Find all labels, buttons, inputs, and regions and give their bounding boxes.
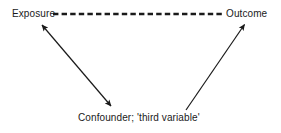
edge-exposure-confounder-double-arrow [42, 25, 111, 106]
edge-confounder-outcome-arrow [186, 25, 245, 111]
node-label-confounder: Confounder; 'third variable' [78, 112, 200, 124]
confounding-diagram: Outcome --> Confounder --> Outcome --> E… [0, 0, 281, 133]
node-label-exposure: Exposure [12, 8, 55, 20]
node-label-outcome: Outcome [226, 8, 267, 20]
